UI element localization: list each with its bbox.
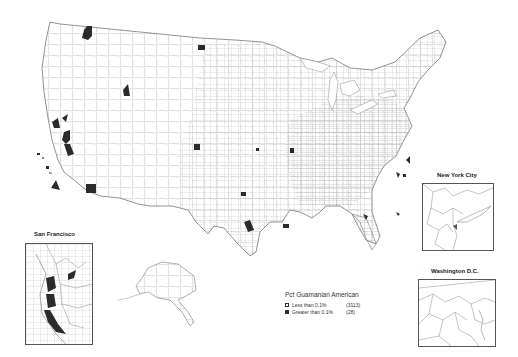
legend-count-low: (3113) <box>346 302 360 308</box>
inset-title-new-york: New York City <box>437 172 477 178</box>
legend-item-low: Less than 0.1% (3113) <box>285 301 395 308</box>
legend-count-high: (28) <box>346 309 355 315</box>
swatch-low <box>285 303 289 307</box>
inset-title-washington: Washington D.C. <box>431 268 479 274</box>
inset-washington <box>418 279 496 347</box>
hawaii <box>37 153 60 190</box>
swatch-high <box>285 310 289 314</box>
legend-title: Pct Guamanian American <box>285 291 395 298</box>
legend-label-high: Greater than 0.1% <box>292 309 340 315</box>
inset-new-york <box>422 183 494 251</box>
contiguous-us <box>42 22 446 256</box>
legend-item-high: Greater than 0.1% (28) <box>285 308 395 315</box>
alaska <box>118 262 196 326</box>
legend: Pct Guamanian American Less than 0.1% (3… <box>285 291 395 315</box>
inset-san-francisco <box>25 243 93 345</box>
legend-label-low: Less than 0.1% <box>292 302 340 308</box>
inset-title-san-francisco: San Francisco <box>34 231 75 237</box>
